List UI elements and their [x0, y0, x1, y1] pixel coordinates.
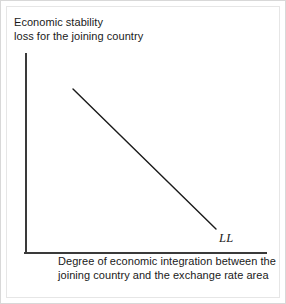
- curve-label-ll: LL: [219, 231, 234, 246]
- y-axis-label: Economic stability loss for the joining …: [14, 16, 143, 43]
- x-axis-label: Degree of economic integration between t…: [58, 255, 276, 282]
- ll-curve-line: [73, 89, 216, 229]
- figure-frame: Economic stability loss for the joining …: [0, 0, 286, 304]
